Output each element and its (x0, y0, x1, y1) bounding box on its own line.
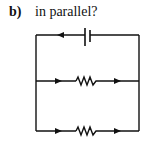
circuit-diagram (0, 0, 149, 144)
arrow-left-icon (57, 32, 64, 38)
arrow-right-icon (55, 128, 62, 134)
arrow-right-icon (114, 78, 121, 84)
resistor-icon (76, 127, 98, 135)
arrow-right-icon (55, 78, 62, 84)
resistor-icon (76, 77, 98, 85)
arrow-right-icon (114, 128, 121, 134)
battery-icon (85, 28, 90, 46)
